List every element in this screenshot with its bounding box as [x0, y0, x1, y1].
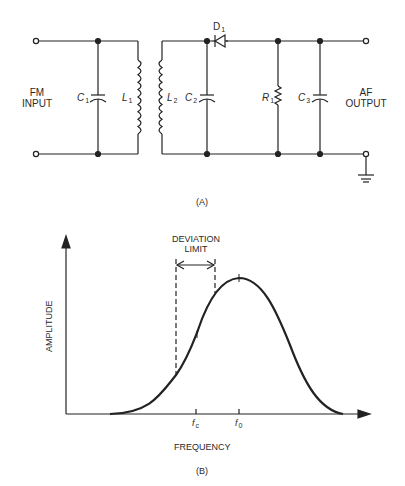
- l2-letter: L: [167, 92, 173, 103]
- fc-letter: f: [192, 418, 195, 428]
- tick-label-fc: fc: [192, 418, 199, 431]
- capacitor-c2: [199, 41, 215, 154]
- label-l2: L2: [167, 92, 177, 106]
- c2-letter: C: [185, 92, 192, 103]
- output-terminal-top: [363, 38, 368, 43]
- l2-sub: 2: [174, 97, 178, 104]
- capacitor-c3: [312, 41, 328, 154]
- deviation-line1: DEVIATION: [163, 234, 229, 244]
- af-output-line1: AF: [343, 87, 389, 98]
- r1-sub: 1: [270, 97, 274, 104]
- deviation-line2: LIMIT: [163, 244, 229, 254]
- l1-letter: L: [122, 92, 128, 103]
- fc-sub: c: [196, 422, 200, 429]
- label-l1: L1: [122, 92, 132, 106]
- response-curve: [110, 278, 343, 414]
- junction-dot: [276, 39, 281, 44]
- x-axis-label: FREQUENCY: [174, 442, 231, 453]
- input-terminal-bottom: [33, 151, 38, 156]
- r1-letter: R: [262, 92, 269, 103]
- d1-sub: 1: [221, 26, 225, 33]
- f0-sub: 0: [239, 422, 243, 429]
- inductor-l2: [159, 41, 162, 154]
- tick-label-f0: f0: [235, 418, 242, 431]
- capacitor-c1: [90, 41, 106, 154]
- c3-sub: 3: [306, 97, 310, 104]
- label-c1: C1: [77, 92, 89, 106]
- f0-letter: f: [235, 418, 238, 428]
- fm-input-line2: INPUT: [17, 98, 57, 109]
- diode-d1: [212, 35, 228, 47]
- label-d1: D1: [213, 21, 225, 35]
- panel-label-a: (A): [196, 197, 208, 208]
- input-terminal-top: [33, 38, 38, 43]
- junction-dot: [96, 39, 101, 44]
- junction-dot: [205, 152, 210, 157]
- label-c3: C3: [298, 92, 310, 106]
- junction-dot: [318, 152, 323, 157]
- response-graph: [62, 236, 370, 418]
- c1-sub: 1: [85, 97, 89, 104]
- resistor-r1: [275, 41, 281, 154]
- l1-sub: 1: [129, 97, 133, 104]
- y-axis-arrow-icon: [62, 236, 70, 248]
- junction-dot: [276, 152, 281, 157]
- c2-sub: 2: [193, 97, 197, 104]
- fm-input-line1: FM: [17, 87, 57, 98]
- fm-input-label: FM INPUT: [17, 87, 57, 109]
- x-axis-arrow-icon: [358, 410, 370, 418]
- af-output-line2: OUTPUT: [343, 98, 389, 109]
- output-terminal-bottom: [363, 151, 368, 156]
- c1-letter: C: [77, 92, 84, 103]
- label-r1: R1: [262, 92, 274, 106]
- y-axis-label: AMPLITUDE: [44, 300, 55, 352]
- junction-dot: [318, 39, 323, 44]
- label-c2: C2: [185, 92, 197, 106]
- junction-dot: [205, 39, 210, 44]
- panel-label-b: (B): [196, 466, 208, 477]
- c3-letter: C: [298, 92, 305, 103]
- deviation-limit-label: DEVIATION LIMIT: [163, 234, 229, 254]
- af-output-label: AF OUTPUT: [343, 87, 389, 109]
- junction-dot: [96, 152, 101, 157]
- ground-symbol: [358, 157, 374, 182]
- d1-letter: D: [213, 21, 220, 32]
- inductor-l1: [138, 41, 141, 154]
- circuit-schematic: [33, 35, 374, 182]
